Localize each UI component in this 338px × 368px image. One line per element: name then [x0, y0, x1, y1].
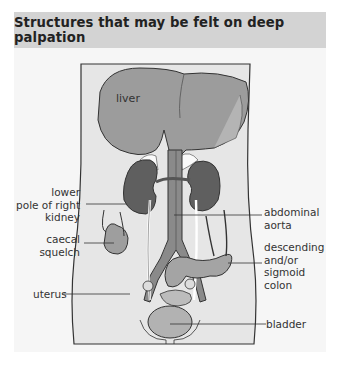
abdomen-illustration	[0, 0, 338, 368]
label-bladder: bladder	[266, 318, 306, 331]
left-kidney	[188, 161, 220, 211]
label-colon-line: colon	[264, 279, 324, 292]
label-caecal-line: squelch	[39, 246, 80, 259]
label-colon-line: sigmoid	[264, 266, 324, 279]
label-abdominal-aorta: abdominal aorta	[264, 206, 319, 231]
label-colon-line: descending	[264, 241, 324, 254]
label-caecal-line: caecal	[39, 233, 80, 246]
label-right-kidney: lower pole of right kidney	[16, 186, 80, 224]
label-aorta-line: aorta	[264, 219, 319, 232]
label-caecal-squelch: caecal squelch	[39, 233, 80, 258]
label-kidney-line: lower	[16, 186, 80, 199]
label-kidney-line: kidney	[16, 211, 80, 224]
label-colon-line: and/or	[264, 254, 324, 267]
bladder	[148, 306, 192, 338]
label-aorta-line: abdominal	[264, 206, 319, 219]
label-uterus: uterus	[33, 288, 67, 301]
label-liver: liver	[116, 93, 140, 106]
label-kidney-line: pole of right	[16, 199, 80, 212]
label-colon: descending and/or sigmoid colon	[264, 241, 324, 291]
